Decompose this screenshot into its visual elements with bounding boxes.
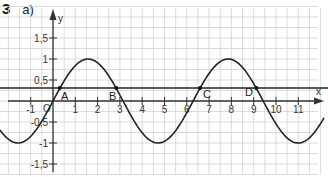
x-tick-label: 5	[162, 104, 168, 115]
y-axis-arrow-icon	[50, 9, 57, 20]
y-axis-label: y	[58, 13, 63, 24]
x-tick-label: -1	[26, 104, 35, 115]
y-tick-label: 0,5	[34, 75, 48, 86]
x-tick-label: 3	[117, 104, 123, 115]
y-tick-label: 1,5	[34, 33, 48, 44]
x-tick-label: 9	[251, 104, 257, 115]
x-tick-label: 1	[73, 104, 79, 115]
y-tick-label: -1	[39, 138, 48, 149]
x-tick-label: 4	[139, 104, 145, 115]
point-c-label: C	[203, 88, 211, 100]
y-tick-label: 1	[42, 54, 48, 65]
x-tick-label: 11	[293, 104, 304, 115]
point-a-label: A	[61, 90, 69, 102]
point-d	[254, 86, 258, 90]
x-tick-label: 2	[95, 104, 101, 115]
x-tick-label: 10	[270, 104, 282, 115]
y-tick-label: -1,5	[31, 159, 49, 170]
x-tick-label: 8	[229, 104, 235, 115]
function-graph: -11234567891011 1,510,5-0,5-1-1,5 x y O …	[0, 0, 328, 177]
x-axis-arrow-icon	[314, 98, 324, 105]
grid	[0, 7, 321, 176]
point-c	[198, 86, 202, 90]
x-tick-label: 7	[206, 104, 212, 115]
point-d-label: D	[245, 86, 253, 98]
point-b-label: B	[109, 90, 116, 102]
